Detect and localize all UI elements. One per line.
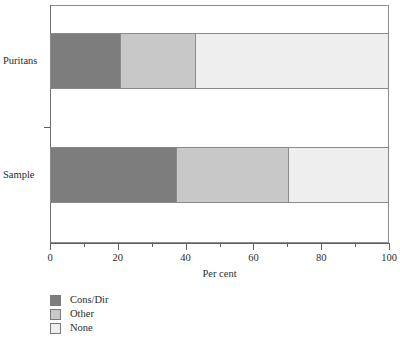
x-tick-label: 0 — [47, 252, 52, 263]
x-tick-label: 20 — [113, 252, 124, 263]
x-axis-title: Per cent — [50, 268, 389, 279]
x-tick-major — [50, 243, 51, 250]
x-tick-major — [118, 243, 119, 250]
x-tick-major — [186, 243, 187, 250]
stacked-bar-chart: 020406080100 Puritans Sample Per cent Co… — [0, 0, 400, 340]
bar-segment-none — [195, 33, 389, 89]
category-label-puritans: Puritans — [3, 55, 37, 66]
bar-puritans — [50, 33, 389, 89]
category-label-sample: Sample — [3, 169, 35, 180]
x-tick-label: 80 — [316, 252, 327, 263]
legend-item: None — [50, 321, 109, 335]
bar-segment-other — [176, 147, 289, 203]
legend-swatch-icon — [50, 323, 61, 334]
legend-item: Other — [50, 307, 109, 321]
bar-segment-cons-dir — [50, 147, 177, 203]
x-tick-label: 40 — [180, 252, 191, 263]
x-tick-minor — [220, 243, 221, 247]
legend-swatch-icon — [50, 309, 61, 320]
bar-segment-other — [120, 33, 196, 89]
bar-sample — [50, 147, 389, 203]
bar-segment-cons-dir — [50, 33, 121, 89]
x-tick-minor — [152, 243, 153, 247]
y-axis-tick — [44, 127, 50, 128]
bar-segment-none — [288, 147, 389, 203]
legend-label: Cons/Dir — [70, 295, 109, 306]
x-tick-label: 100 — [381, 252, 397, 263]
x-tick-major — [389, 243, 390, 250]
legend-item: Cons/Dir — [50, 293, 109, 307]
legend-label: None — [70, 323, 93, 334]
x-tick-minor — [355, 243, 356, 247]
x-tick-label: 60 — [248, 252, 259, 263]
x-tick-minor — [84, 243, 85, 247]
chart-legend: Cons/DirOtherNone — [50, 293, 109, 335]
x-tick-major — [253, 243, 254, 250]
x-tick-major — [321, 243, 322, 250]
legend-label: Other — [70, 309, 94, 320]
x-tick-minor — [287, 243, 288, 247]
legend-swatch-icon — [50, 295, 61, 306]
